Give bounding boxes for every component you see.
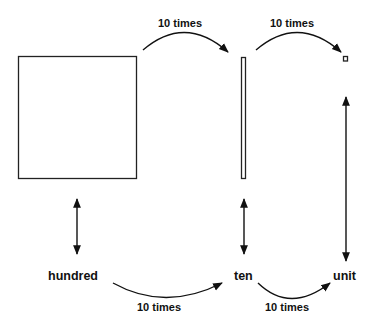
hundred-block-square: [19, 57, 137, 179]
place-value-diagram: 10 times 10 times hundred ten unit 10 ti…: [0, 0, 371, 330]
hundred-label: hundred: [48, 269, 98, 283]
bottom-arrow-label-2: 10 times: [265, 301, 309, 313]
unit-block-square: [344, 57, 348, 62]
bottom-arrow-ten-to-unit: 10 times: [258, 283, 330, 313]
ten-block-bar: [242, 58, 246, 179]
top-arrow-label-1: 10 times: [158, 17, 202, 29]
top-arrow-label-2: 10 times: [270, 17, 314, 29]
bottom-arrow-label-1: 10 times: [137, 301, 181, 313]
ten-label: ten: [234, 269, 253, 283]
bottom-arrow-hundred-to-ten: 10 times: [113, 283, 222, 313]
top-arrow-ten-to-unit: 10 times: [256, 17, 341, 52]
top-arrow-hundred-to-ten: 10 times: [143, 17, 228, 52]
unit-label: unit: [333, 269, 357, 283]
